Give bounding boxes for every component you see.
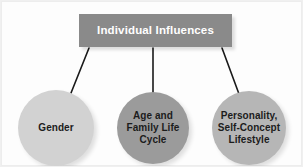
node-personality-self-concept-lifestyle: Personality, Self-Concept Lifestyle: [212, 91, 286, 165]
connector-header-to-gender: [71, 48, 89, 93]
node-gender-label: Gender: [38, 122, 73, 134]
header-node-label: Individual Influences: [97, 25, 214, 37]
node-gender: Gender: [18, 90, 94, 166]
connector-header-to-personality: [222, 48, 239, 94]
individual-influences-diagram: Individual Influences Gender Age and Fam…: [0, 0, 303, 167]
node-age-family-life-cycle-label: Age and Family Life Cycle: [127, 110, 180, 147]
header-node-individual-influences: Individual Influences: [79, 14, 232, 47]
node-personality-self-concept-lifestyle-label: Personality, Self-Concept Lifestyle: [218, 110, 280, 147]
node-age-family-life-cycle: Age and Family Life Cycle: [117, 92, 189, 164]
